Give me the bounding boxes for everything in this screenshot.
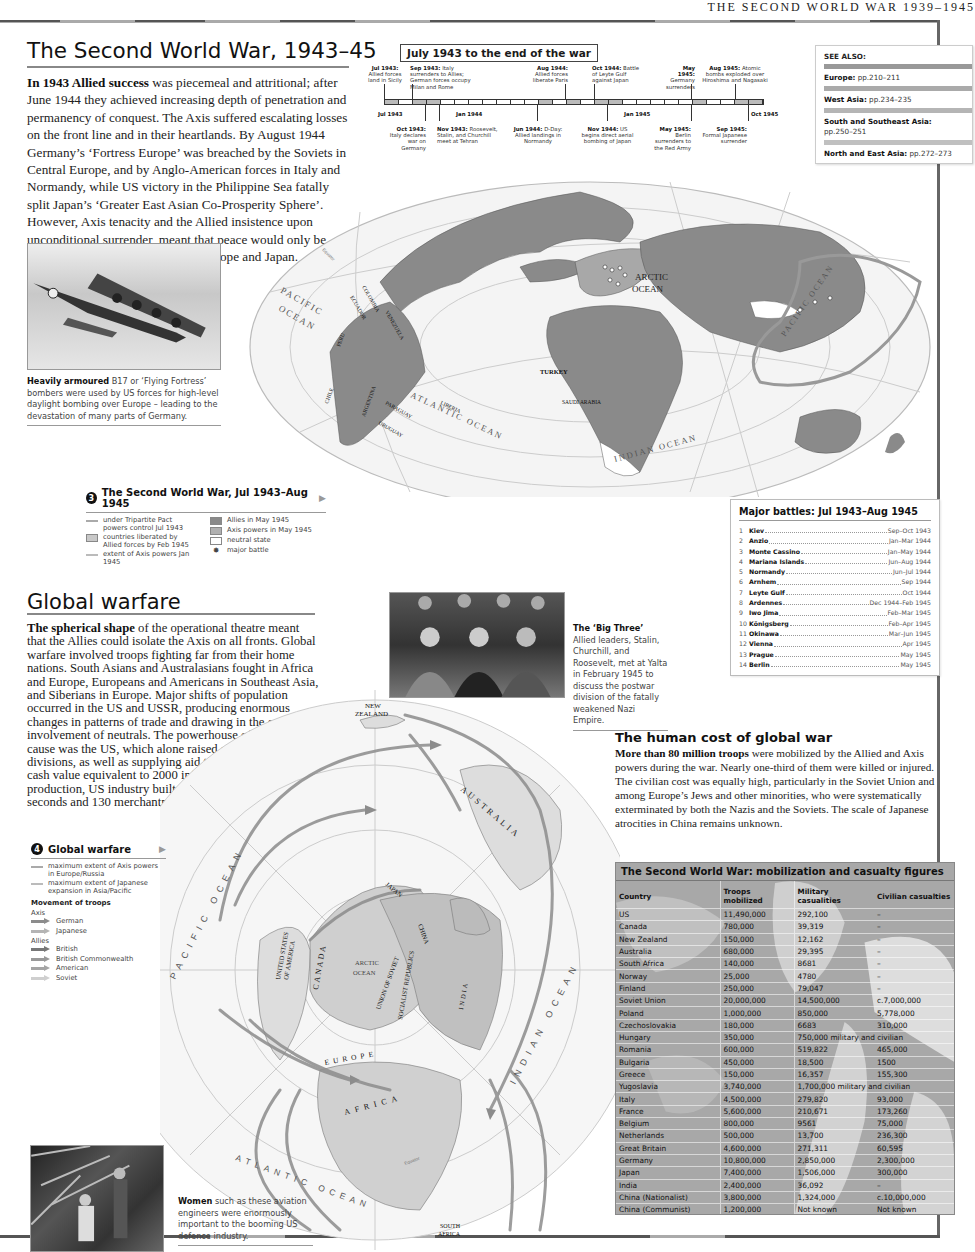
- battle-date: Jun–Jul 1944: [893, 567, 931, 577]
- battle-date: Sep–Oct 1943: [888, 526, 931, 536]
- cell-civilian: 300,000: [874, 1167, 954, 1179]
- section-title-human-cost: The human cost of global war: [615, 730, 832, 745]
- battle-name: Normandy: [749, 567, 785, 577]
- cell-civilian: 93,000: [874, 1093, 954, 1105]
- casualty-table: The Second World War: mobilization and c…: [615, 862, 955, 1215]
- table-row: Great Britain4,600,000271,31160,595: [616, 1142, 954, 1154]
- table-row: France5,600,000210,671173,260: [616, 1105, 954, 1117]
- cell-country: Germany: [616, 1154, 720, 1166]
- timeline-axis-1: Jan 1944: [456, 111, 482, 117]
- cell-country: Belgium: [616, 1118, 720, 1130]
- see-also-link-west-asia[interactable]: West Asia: pp.234–235: [824, 95, 964, 105]
- cell-military: 2,850,000: [794, 1154, 874, 1166]
- cell-country: China (Nationalist): [616, 1191, 720, 1203]
- cell-military: 6683: [794, 1019, 874, 1031]
- battle-date: Mar–Jun 1945: [889, 629, 931, 639]
- battle-name: Berlin: [749, 660, 770, 670]
- cell-country: US: [616, 909, 720, 921]
- battle-row: 6ArnhemSep 1944: [739, 577, 931, 587]
- timeline-event: Sep 1945: Formal Japanese surrender: [697, 126, 747, 145]
- cell-military: 850,000: [794, 1007, 874, 1019]
- arrow-icon: [31, 928, 51, 935]
- cell-country: Norway: [616, 970, 720, 982]
- svg-text:TURKEY: TURKEY: [540, 368, 568, 375]
- cell-country: Italy: [616, 1093, 720, 1105]
- see-also-link-east-asia[interactable]: North and East Asia: pp.272–273: [824, 149, 964, 159]
- arrow-icon: [31, 975, 51, 982]
- battle-name: Monte Cassino: [749, 547, 800, 557]
- table-row: China (Nationalist)3,800,0001,324,000c.1…: [616, 1191, 954, 1203]
- battle-row: 11OkinawaMar–Jun 1945: [739, 629, 931, 639]
- battle-name: Kiev: [749, 526, 764, 536]
- battle-row: 2AnzioJan–Mar 1944: [739, 536, 931, 546]
- svg-text:OCEAN: OCEAN: [353, 969, 376, 976]
- title-rule: [27, 613, 315, 615]
- cell-civilian: –: [874, 909, 954, 921]
- cell-military: 519,822: [794, 1044, 874, 1056]
- battles-title: Major battles: Jul 1943–Aug 1945: [739, 506, 931, 521]
- see-also-link-europe[interactable]: Europe: pp.210–211: [824, 73, 964, 83]
- timeline-event: Jun 1944: D-Day: Allied landings in Norm…: [512, 126, 564, 145]
- cell-troops: 4,600,000: [720, 1142, 794, 1154]
- see-also-link-south-asia[interactable]: South and Southeast Asia:pp.250–251: [824, 117, 964, 137]
- cell-civilian: –: [874, 970, 954, 982]
- arrow-icon: [31, 946, 51, 953]
- battle-name: Okinawa: [749, 629, 779, 639]
- table-row: China (Communist)1,200,000Not knownNot k…: [616, 1204, 954, 1215]
- cell-country: China (Communist): [616, 1204, 720, 1215]
- table-row: Romania600,000519,822465,000: [616, 1044, 954, 1056]
- cell-country: Japan: [616, 1167, 720, 1179]
- cell-civilian: –: [874, 958, 954, 970]
- cell-troops: 140,000: [720, 958, 794, 970]
- battle-name: Königsberg: [749, 619, 789, 629]
- cell-civilian: 173,260: [874, 1105, 954, 1117]
- battle-row: 3Monte CassinoJan–May 1944: [739, 547, 931, 557]
- cell-civilian: –: [874, 921, 954, 933]
- table-row: US11,490,000292,100–: [616, 909, 954, 921]
- table-row: Yugoslavia3,740,0001,700,000 military an…: [616, 1081, 954, 1093]
- cell-country: Bulgaria: [616, 1056, 720, 1068]
- intro-lead: In 1943 Allied success: [27, 75, 149, 90]
- see-also-heading: SEE ALSO:: [824, 52, 964, 61]
- title-rule: [27, 66, 349, 68]
- cell-military: 8681: [794, 958, 874, 970]
- table-row: Australia680,00029,395–: [616, 945, 954, 957]
- battle-date: Oct 1944: [903, 588, 931, 598]
- cell-military: 271,311: [794, 1142, 874, 1154]
- table-row: South Africa140,0008681–: [616, 958, 954, 970]
- cell-civilian: 1500: [874, 1056, 954, 1068]
- svg-text:OCEAN: OCEAN: [632, 284, 663, 294]
- battle-date: Jan–Mar 1944: [889, 536, 931, 546]
- cell-military: 79,047: [794, 982, 874, 994]
- cell-troops: 3,800,000: [720, 1191, 794, 1203]
- timeline-axis-2: Jan 1945: [624, 111, 650, 117]
- cell-civilian: c.10,000,000: [874, 1191, 954, 1203]
- timeline-event: Nov 1944: US begins direct aerial bombin…: [580, 126, 635, 145]
- cell-troops: 500,000: [720, 1130, 794, 1142]
- table-row: Norway25,0004780–: [616, 970, 954, 982]
- cell-troops: 780,000: [720, 921, 794, 933]
- aircraft-icon: [28, 244, 220, 369]
- timeline-bar: [384, 99, 764, 105]
- battle-name: Prague: [749, 650, 774, 660]
- battle-name: Leyte Gulf: [749, 588, 785, 598]
- b17-bomber-photo: [27, 243, 221, 370]
- cell-military: 279,820: [794, 1093, 874, 1105]
- human-cost-paragraph: More than 80 million troops were mobiliz…: [615, 747, 945, 830]
- svg-text:AFRICA: AFRICA: [438, 1231, 461, 1237]
- cell-military: 18,500: [794, 1056, 874, 1068]
- major-battles-box: Major battles: Jul 1943–Aug 1945 1KievSe…: [730, 499, 940, 676]
- battle-row: 7Leyte GulfOct 1944: [739, 588, 931, 598]
- battle-date: Jun–Aug 1944: [888, 557, 931, 567]
- big-three-photo: [389, 592, 565, 698]
- timeline-event: Oct 1944: Battle of Leyte Gulf against J…: [592, 65, 642, 84]
- table-row: India2,400,00036,092–: [616, 1179, 954, 1191]
- table-row: Canada780,00039,319–: [616, 921, 954, 933]
- cell-country: Poland: [616, 1007, 720, 1019]
- cell-civilian: 60,595: [874, 1142, 954, 1154]
- cell-troops: 150,000: [720, 1068, 794, 1080]
- table-row: Czechoslovakia180,0006683310,000: [616, 1019, 954, 1031]
- table-row: Belgium800,000956175,000: [616, 1118, 954, 1130]
- cell-country: Netherlands: [616, 1130, 720, 1142]
- timeline-event: Jul 1943:Allied forces land in Sicily: [364, 65, 406, 84]
